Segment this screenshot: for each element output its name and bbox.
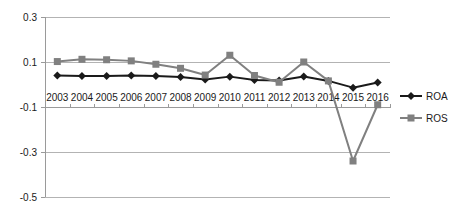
- x-axis-tick-label: 2007: [145, 92, 168, 103]
- x-axis-tick-label: 2015: [342, 92, 365, 103]
- data-point-marker: [226, 73, 234, 81]
- x-axis-tick-label: 2009: [194, 92, 217, 103]
- line-chart: 0.30.1-0.1-0.3-0.5 200320042005200620072…: [0, 0, 460, 213]
- data-point-marker: [325, 77, 332, 84]
- legend-label: ROS: [426, 113, 448, 124]
- data-point-marker: [350, 158, 357, 165]
- data-point-marker: [374, 78, 382, 86]
- xtick-labels-group: 2003200420052006200720082009201020112012…: [46, 92, 389, 103]
- data-point-marker: [78, 72, 86, 80]
- legend-swatch-marker: [408, 115, 415, 122]
- x-axis-tick-label: 2014: [317, 92, 340, 103]
- x-axis-tick-label: 2006: [120, 92, 143, 103]
- data-point-marker: [54, 58, 61, 65]
- data-point-marker: [251, 72, 258, 79]
- data-point-marker: [78, 56, 85, 63]
- data-point-marker: [53, 72, 61, 80]
- data-point-marker: [103, 56, 110, 63]
- data-point-marker: [300, 72, 308, 80]
- data-point-marker: [202, 72, 209, 79]
- data-point-marker: [177, 73, 185, 81]
- data-point-marker: [276, 79, 283, 86]
- y-axis-tick-label: -0.1: [20, 102, 38, 113]
- legend-group: ROAROS: [400, 91, 448, 124]
- x-axis-tick-label: 2012: [268, 92, 291, 103]
- data-point-marker: [152, 61, 159, 68]
- data-point-marker: [127, 72, 135, 80]
- data-point-marker: [300, 59, 307, 66]
- data-point-marker: [103, 72, 111, 80]
- data-point-marker: [226, 52, 233, 59]
- series-roa: [53, 72, 381, 92]
- data-point-marker: [177, 65, 184, 72]
- series-ros: [54, 52, 381, 165]
- x-axis-tick-label: 2010: [219, 92, 242, 103]
- legend-item-ros[interactable]: ROS: [400, 113, 448, 124]
- legend-swatch-marker: [407, 92, 415, 100]
- x-axis-tick-label: 2008: [169, 92, 192, 103]
- y-axis-tick-label: 0.1: [23, 57, 37, 68]
- x-axis-tick-label: 2005: [95, 92, 118, 103]
- legend-label: ROA: [426, 91, 448, 102]
- data-point-marker: [128, 57, 135, 64]
- x-axis-tick-label: 2004: [71, 92, 94, 103]
- chart-container: 0.30.1-0.1-0.3-0.5 200320042005200620072…: [0, 0, 460, 213]
- ytick-labels-group: 0.30.1-0.1-0.3-0.5: [20, 12, 38, 203]
- x-axis-tick-label: 2013: [293, 92, 316, 103]
- series-group: [53, 52, 381, 165]
- x-axis-tick-label: 2011: [244, 92, 266, 103]
- y-axis-tick-label: -0.5: [20, 192, 38, 203]
- y-axis-tick-label: 0.3: [23, 12, 37, 23]
- series-line-ros: [57, 55, 377, 161]
- data-point-marker: [374, 101, 381, 108]
- axis-group: [41, 17, 391, 198]
- data-point-marker: [349, 84, 357, 92]
- x-axis-tick-label: 2016: [367, 92, 390, 103]
- y-axis-tick-label: -0.3: [20, 147, 38, 158]
- legend-item-roa[interactable]: ROA: [400, 91, 448, 102]
- data-point-marker: [152, 72, 160, 80]
- x-axis-tick-label: 2003: [46, 92, 69, 103]
